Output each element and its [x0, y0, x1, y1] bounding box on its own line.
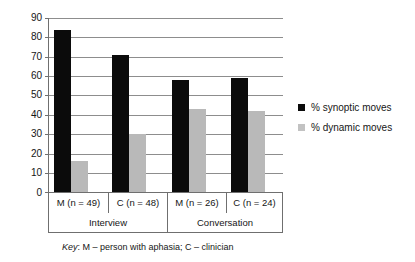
y-axis-tick-70: 70: [20, 52, 42, 62]
y-axis-tick-10: 10: [20, 168, 42, 178]
bar-dynamic-m49: [71, 161, 88, 192]
bar-synoptic-m49: [54, 30, 71, 192]
category-cell-c24: C (n = 24): [227, 192, 282, 213]
category-cell-c48: C (n = 48): [109, 192, 167, 213]
legend-swatch-dynamic-icon: [298, 124, 305, 131]
bar-synoptic-m26: [172, 80, 189, 192]
group-label-conversation: Conversation: [168, 213, 282, 233]
y-axis-tick-20: 20: [20, 149, 42, 159]
chart-legend: % synoptic moves % dynamic moves: [298, 99, 413, 139]
y-axis-tick-80: 80: [20, 32, 42, 42]
category-label-table: M (n = 49) C (n = 48) M (n = 26) C (n = …: [48, 192, 283, 233]
y-axis-tick-40: 40: [20, 110, 42, 120]
bar-chart-figure: 90 80 70 60 50 40 30 20 10 0: [0, 0, 415, 262]
key-note-text: : M – person with aphasia; C – clinician: [78, 242, 234, 252]
legend-label-synoptic: % synoptic moves: [311, 99, 392, 116]
bar-dynamic-m26: [189, 109, 206, 192]
legend-entry-dynamic: % dynamic moves: [298, 119, 413, 139]
y-axis-tick-30: 30: [20, 129, 42, 139]
bar-dynamic-c24: [248, 111, 265, 192]
y-axis-tick-0: 0: [20, 188, 42, 198]
legend-swatch-synoptic-icon: [298, 104, 305, 111]
y-axis-tick-60: 60: [20, 71, 42, 81]
y-axis-tick-90: 90: [20, 13, 42, 23]
bar-dynamic-c48: [129, 134, 146, 192]
key-note: Key: M – person with aphasia; C – clinic…: [62, 241, 234, 253]
category-cell-m26: M (n = 26): [168, 192, 226, 213]
bar-synoptic-c48: [112, 55, 129, 192]
key-note-word: Key: [62, 242, 78, 252]
legend-label-dynamic: % dynamic moves: [311, 119, 392, 136]
plot-area: [48, 18, 283, 192]
group-label-interview: Interview: [49, 213, 167, 233]
y-axis-tick-50: 50: [20, 90, 42, 100]
bar-synoptic-c24: [231, 78, 248, 192]
legend-entry-synoptic: % synoptic moves: [298, 99, 413, 119]
category-cell-m49: M (n = 49): [49, 192, 108, 213]
